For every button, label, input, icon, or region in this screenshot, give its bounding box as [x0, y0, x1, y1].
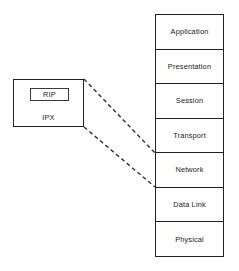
osi-layer-transport: Transport	[156, 119, 223, 154]
osi-layer-session: Session	[156, 84, 223, 119]
osi-layer-data-link: Data Link	[156, 188, 223, 223]
osi-layer-network: Network	[156, 153, 223, 188]
osi-layer-label: Session	[176, 97, 203, 104]
osi-layer-label: Network	[175, 166, 203, 173]
osi-reference-model-stack: Application Presentation Session Transpo…	[155, 14, 224, 257]
upper-mapping-line	[84, 79, 155, 153]
osi-layer-label: Transport	[173, 132, 206, 139]
osi-layer-physical: Physical	[156, 222, 223, 256]
ipx-label-container: IPX	[14, 106, 83, 124]
osi-layer-label: Data Link	[173, 201, 206, 208]
osi-layer-label: Physical	[175, 236, 204, 243]
ipx-protocol-box: RIP IPX	[13, 79, 84, 127]
rip-protocol-label: RIP	[43, 91, 56, 98]
rip-protocol-box: RIP	[30, 88, 69, 101]
osi-layer-label: Application	[171, 28, 209, 35]
lower-mapping-line	[84, 127, 155, 187]
protocol-osi-mapping-diagram: RIP IPX Application Presentation Session…	[0, 0, 239, 271]
osi-layer-presentation: Presentation	[156, 50, 223, 85]
ipx-protocol-label: IPX	[42, 113, 54, 122]
osi-layer-label: Presentation	[168, 63, 211, 70]
osi-layer-application: Application	[156, 15, 223, 50]
